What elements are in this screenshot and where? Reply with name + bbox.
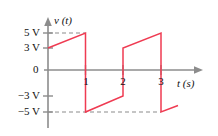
waveform-figure: 5 V 3 V −3 V −5 V 0 1 2 3 v (t) t (s) xyxy=(0,0,218,136)
y-tick-label-3v: 3 V xyxy=(8,42,40,53)
x-tick-label-2: 2 xyxy=(114,76,132,87)
y-tick-label-minus-3v: −3 V xyxy=(3,90,40,101)
x-axis-arrowhead xyxy=(194,66,203,74)
y-tick-label-minus-5v: −5 V xyxy=(3,106,40,117)
x-tick-label-1: 1 xyxy=(77,76,95,87)
y-tick-label-5v: 5 V xyxy=(8,27,40,38)
origin-label: 0 xyxy=(33,64,39,75)
x-axis-label: t (s) xyxy=(177,78,194,89)
y-axis-label: v (t) xyxy=(54,15,72,26)
y-axis-arrowhead xyxy=(44,17,52,26)
waveform-trace xyxy=(48,33,178,112)
x-tick-label-3: 3 xyxy=(152,76,170,87)
